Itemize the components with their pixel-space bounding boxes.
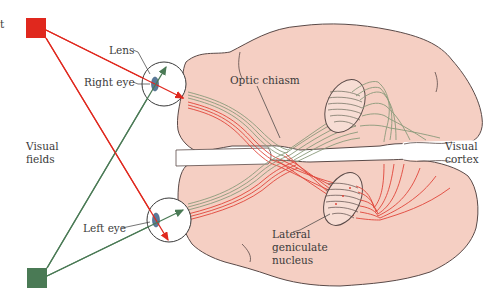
lgn-label-3: nucleus <box>272 254 313 266</box>
right-eye-label: Right eye <box>84 76 135 88</box>
visual-fields-label-1: Visual <box>26 140 59 152</box>
lgn-label-2: geniculate <box>272 241 328 253</box>
cut-off-label: t <box>0 18 4 30</box>
visual-cortex-label-2: cortex <box>445 153 479 165</box>
red-stimulus-square <box>26 18 46 38</box>
green-stimulus-square <box>27 268 47 288</box>
optic-chiasm-label: Optic chiasm <box>230 74 300 86</box>
visual-pathway-diagram: t Lens Right eye Visual fields Left eye … <box>0 0 496 304</box>
visual-cortex-label-1: Visual <box>445 140 478 152</box>
lgn-label-1: Lateral <box>272 228 310 240</box>
lens-label: Lens <box>109 44 134 56</box>
diagram-canvas <box>0 0 496 304</box>
left-eye-label: Left eye <box>83 222 126 234</box>
visual-fields-label-2: fields <box>26 153 55 165</box>
